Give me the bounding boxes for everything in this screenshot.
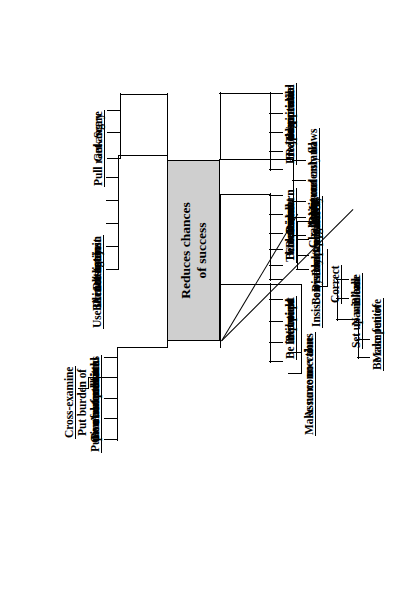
connector-stub-be-noncommittal (104, 418, 118, 419)
label-insist-on-early-precision: Insist on early precision (310, 211, 323, 328)
connector-riser-faultfinding (219, 159, 294, 160)
connector-stub-be-judgemental (269, 132, 283, 133)
connector-stub-order (269, 233, 283, 234)
connector-spine-burden (167, 308, 168, 348)
connector-stub-make-no-connections (288, 373, 302, 374)
connector-stub-threaten-warn (269, 265, 283, 266)
connector-stub-stone-face (104, 439, 118, 440)
connector-riser-negativity (219, 93, 271, 94)
connector-stub-misunderstand (292, 180, 306, 181)
connector-bar-withdrawal (118, 155, 119, 270)
central-node: Reduces chances of success (167, 160, 220, 341)
connector-stub-give-no-feedback (104, 398, 118, 399)
connector-stub-be-cynical (296, 255, 309, 256)
connector-spine-dominance (220, 194, 221, 284)
connector-bar-aggression (120, 93, 121, 159)
connector-stub-be-inattentive (106, 246, 119, 247)
label-demand: Demand (284, 206, 297, 249)
connector-stub-scare (107, 110, 121, 111)
connector-riser-aggression (120, 94, 168, 95)
connector-stub-ask-questions (104, 377, 118, 378)
connector-riser-burden (117, 347, 168, 348)
label-make-fun-of: Make fun of (371, 303, 384, 364)
connector-stub-act-distant (106, 269, 119, 270)
label-put-on-a-stone-face: Put on a stone face (89, 361, 102, 453)
label-use-silence-against: Use silence against (91, 238, 104, 329)
connector-stub-make-fun-of (357, 357, 370, 358)
connector-stub-disapprove (269, 169, 283, 170)
label-be-bored: Be bored (284, 298, 297, 343)
mind-map-canvas: Reduces chances of success (0, 0, 410, 611)
connector-stub-preach-moralize (269, 113, 283, 114)
connector-bar-impatience (270, 283, 271, 363)
connector-stub-command (269, 214, 283, 215)
connector-stub-put-burden (104, 357, 118, 358)
connector-stub-insist-precision (296, 269, 309, 270)
connector-link-negativity (220, 92, 221, 160)
connector-stub-be-critical (269, 151, 283, 152)
connector-stub-be-bored (269, 361, 283, 362)
connector-bar-burden (117, 347, 118, 441)
connector-stub-be-impatient (269, 299, 283, 300)
connector-stub-interrupt (269, 342, 283, 343)
label-put-burden-of: Put burden of (76, 369, 88, 436)
connector-bar-dominance (270, 193, 271, 281)
connector-stub-do-not-listen (106, 223, 119, 224)
label-correct: Correct (329, 265, 342, 304)
connector-riser-dominance (219, 194, 271, 195)
connector-stub-be-dominant (269, 195, 283, 196)
central-node-line2: of success (194, 223, 210, 279)
label-scare: Scare (92, 110, 105, 139)
connector-stub-be-pessimistic (269, 93, 283, 94)
connector-spine-withdrawal (167, 155, 168, 213)
label-disapprove: Disapprove (284, 89, 297, 146)
connector-riser-impatience (219, 284, 271, 285)
label-set-up-win-lose: Set up win/lose (350, 275, 363, 349)
connector-bar-negative-reaction (297, 221, 298, 270)
connector-stub-use-silence (106, 177, 119, 178)
label-cross-examine: Cross-examine (63, 366, 76, 439)
connector-stub-nit-pick (269, 321, 283, 322)
connector-stub-do-not-join (106, 200, 119, 201)
central-node-line1: Reduces chances (178, 202, 194, 298)
connector-stub-get-angry (107, 132, 121, 133)
label-make-no-connections: Make no connections (303, 332, 316, 436)
connector-riser-withdrawal (118, 155, 168, 156)
